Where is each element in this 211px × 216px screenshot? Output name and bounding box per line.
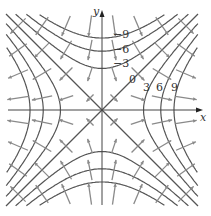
gradient-arrow-icon [33,68,52,79]
level-label-neg9: −9 [113,28,129,41]
gradient-arrow-icon [9,164,27,177]
gradient-arrow-icon [8,142,28,151]
gradient-arrow-icon [176,142,196,151]
gradient-arrow-icon [131,119,145,124]
gradient-arrow-icon [60,161,71,180]
gradient-arrow-icon [87,15,91,36]
gradient-arrow-icon [175,119,196,123]
gradient-arrow-icon [177,44,195,57]
gradient-arrow-icon [62,184,71,204]
gradient-arrow-icon [33,140,52,151]
level-label-9: 9 [171,81,178,94]
gradient-arrow-icon [59,96,73,101]
gradient-arrow-icon [8,70,28,79]
level-label-neg6: −6 [113,43,129,56]
level-label-0: 0 [129,73,136,86]
gradient-arrow-icon [132,41,143,60]
gradient-arrow-icon [87,67,92,81]
x-axis-label: x [200,111,207,124]
gradient-arrow-icon [156,185,169,203]
gradient-arrow-icon [134,16,143,36]
gradient-arrow-icon [156,17,169,35]
level-labels: −9 −6 −3 0 3 6 9 [113,28,178,94]
gradient-arrow-icon [132,161,143,180]
gradient-field-diagram: x y −9 −6 −3 0 3 6 9 [0,0,211,216]
level-label-3: 3 [143,81,150,94]
gradient-arrow-icon [62,16,71,36]
gradient-arrow-icon [7,119,28,123]
gradient-arrow-icon [87,183,91,204]
gradient-arrow-icon [175,96,196,100]
gradient-arrow-icon [134,184,143,204]
gradient-arrow-icon [60,41,71,60]
gradient-arrow-icon [87,139,92,153]
gradient-arrow-icon [176,70,196,79]
gradient-arrow-icon [7,96,28,100]
gradient-arrow-icon [36,17,49,35]
y-axis-arrowhead-icon [100,10,105,17]
gradient-arrow-icon [36,185,49,203]
gradient-arrow-icon [131,96,145,101]
gradient-arrow-icon [153,68,172,79]
gradient-arrow-icon [112,139,117,153]
gradient-arrow-icon [112,183,116,204]
y-axis-label: y [92,5,100,18]
gradient-arrow-icon [9,44,27,57]
level-label-neg3: −3 [113,57,129,70]
level-label-6: 6 [156,81,163,94]
gradient-arrow-icon [153,140,172,151]
gradient-arrow-icon [177,164,195,177]
gradient-arrow-icon [59,119,73,124]
